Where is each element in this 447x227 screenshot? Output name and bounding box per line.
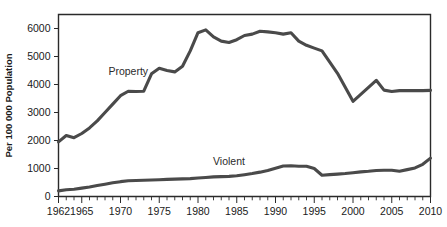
x-tick-label: 2005 xyxy=(380,205,404,217)
y-tick-label: 6000 xyxy=(27,22,51,34)
x-tick-label: 1990 xyxy=(264,205,288,217)
y-axis-title: Per 100 000 Population xyxy=(3,53,14,157)
x-tick-label: 1980 xyxy=(186,205,210,217)
x-tick-label: 1975 xyxy=(148,205,172,217)
y-axis-ticks-group: 0100020003000400050006000 xyxy=(27,22,58,202)
y-tick-label: 2000 xyxy=(27,134,51,146)
x-tick-label: 2000 xyxy=(341,205,365,217)
x-tick-label: 1965 xyxy=(70,205,94,217)
y-tick-label: 4000 xyxy=(27,78,51,90)
series-line-property xyxy=(59,30,431,142)
series-label-violent: Violent xyxy=(213,155,245,167)
x-tick-label: 1985 xyxy=(225,205,249,217)
y-axis-label-group: Per 100 000 Population xyxy=(3,53,14,157)
x-axis-ticks-group: 1962196519701975198019851990199520002005… xyxy=(47,197,443,218)
crime-rate-line-chart: Per 100 000 Population 01000200030004000… xyxy=(0,0,447,227)
x-tick-label: 1995 xyxy=(303,205,327,217)
y-tick-label: 3000 xyxy=(27,106,51,118)
y-tick-label: 1000 xyxy=(27,162,51,174)
series-label-property: Property xyxy=(108,65,148,77)
y-tick-label: 5000 xyxy=(27,50,51,62)
series-inline-labels-group: PropertyViolent xyxy=(108,65,245,167)
chart-canvas: Per 100 000 Population 01000200030004000… xyxy=(0,0,447,227)
y-tick-label: 0 xyxy=(45,190,51,202)
x-tick-label: 2010 xyxy=(419,205,443,217)
x-tick-label: 1962 xyxy=(47,205,71,217)
x-tick-label: 1970 xyxy=(109,205,133,217)
